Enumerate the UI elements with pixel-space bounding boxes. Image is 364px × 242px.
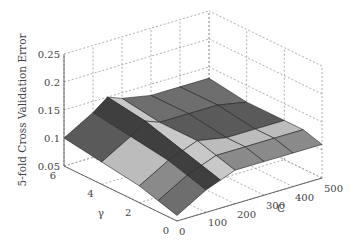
x-tick-label: 400 <box>295 192 314 203</box>
z-tick-label: 0.2 <box>44 77 60 88</box>
z-tick-label: 0.25 <box>38 49 60 60</box>
surface-chart: 0.050.10.150.20.25 0246 0100200300400500… <box>0 0 364 242</box>
y-axis-label: γ <box>98 207 104 219</box>
z-tick-labels: 0.050.10.150.20.25 <box>38 49 60 172</box>
y-tick-label: 2 <box>125 207 131 218</box>
x-tick-label: 200 <box>237 209 256 220</box>
z-axis-label: 5-fold Cross Validation Error <box>16 33 28 187</box>
z-tick-label: 0.1 <box>44 133 60 144</box>
x-tick-label: 100 <box>208 217 227 228</box>
x-axis-label: C <box>277 202 285 214</box>
y-tick-label: 6 <box>50 170 56 181</box>
y-tick-label: 0 <box>163 225 169 236</box>
y-tick-label: 4 <box>87 188 93 199</box>
x-tick-label: 500 <box>324 183 343 194</box>
z-tick-label: 0.15 <box>38 105 60 116</box>
x-tick-label: 0 <box>179 226 185 237</box>
